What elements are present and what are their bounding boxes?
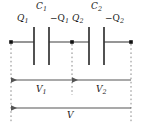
label-charge-neg-q1: −Q1 bbox=[50, 14, 69, 24]
label-voltage-total: V bbox=[67, 111, 74, 121]
node-dot-left bbox=[9, 40, 13, 44]
voltage-arrows-group bbox=[11, 80, 131, 108]
capacitor-c1-plates bbox=[34, 27, 49, 65]
node-dot-right bbox=[129, 40, 133, 44]
label-charge-q1: Q1 bbox=[17, 14, 28, 24]
label-charge-neg-q2-subscript: 2 bbox=[120, 17, 124, 25]
label-voltage-v1-subscript: 1 bbox=[43, 88, 47, 96]
label-voltage-total-symbol: V bbox=[67, 110, 74, 120]
capacitor-c2-plates bbox=[89, 27, 104, 65]
label-charge-q2-subscript: 2 bbox=[79, 17, 83, 25]
label-capacitor-c2-subscript: 2 bbox=[98, 5, 102, 13]
label-charge-q2: Q2 bbox=[72, 14, 83, 24]
label-capacitor-c1-subscript: 1 bbox=[43, 5, 47, 13]
node-dot-middle bbox=[70, 40, 74, 44]
label-capacitor-c2-symbol: C bbox=[91, 1, 98, 11]
label-charge-neg-q2: −Q2 bbox=[105, 14, 124, 24]
label-voltage-v1: V1 bbox=[36, 85, 47, 95]
label-voltage-v2: V2 bbox=[96, 85, 107, 95]
label-capacitor-c2: C2 bbox=[91, 2, 102, 12]
label-charge-q1-subscript: 1 bbox=[24, 17, 28, 25]
label-capacitor-c1: C1 bbox=[36, 2, 47, 12]
capacitor-series-diagram: Q1 C1 −Q1 Q2 C2 −Q2 V1 V2 V bbox=[0, 0, 142, 124]
label-charge-neg-q1-subscript: 1 bbox=[65, 17, 69, 25]
label-charge-neg-q2-symbol: −Q bbox=[105, 13, 120, 23]
label-voltage-v2-subscript: 2 bbox=[103, 88, 107, 96]
label-capacitor-c1-symbol: C bbox=[36, 1, 43, 11]
label-charge-neg-q1-symbol: −Q bbox=[50, 13, 65, 23]
